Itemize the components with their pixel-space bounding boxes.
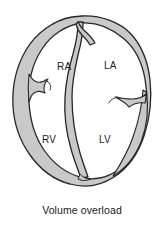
right-atrial-valve-leaflet-path [28, 74, 48, 102]
heart-diagram-figure: RA LA RV LV Volume overload [0, 0, 164, 226]
septum-group [65, 22, 95, 178]
heart-cross-section-illustration [0, 0, 164, 200]
label-left-atrium: LA [104, 60, 117, 71]
label-right-atrium: RA [57, 61, 71, 72]
label-right-ventricle: RV [42, 134, 56, 145]
label-left-ventricle: LV [99, 134, 111, 145]
figure-caption: Volume overload [0, 203, 164, 217]
left-atrial-appendage-notch [109, 94, 146, 107]
interventricular-septum-path [65, 22, 88, 178]
right-atrial-appendage-notch [28, 74, 51, 102]
